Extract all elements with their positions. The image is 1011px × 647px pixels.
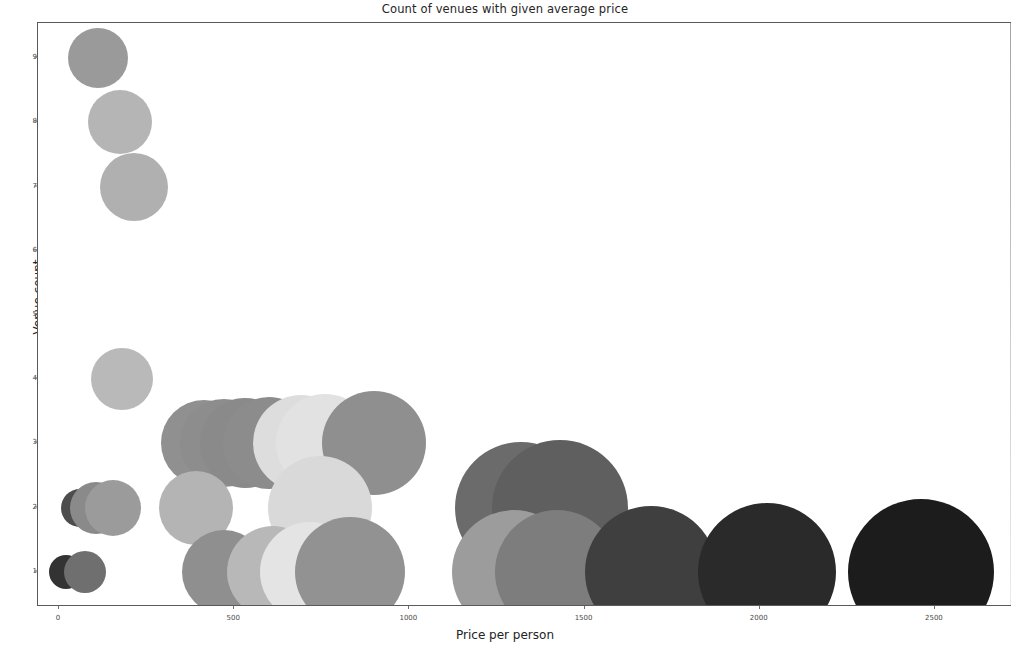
bubble-point	[64, 551, 106, 593]
y-axis-ticks: 123456789	[10, 0, 37, 647]
x-tick-label: 2000	[750, 614, 768, 622]
x-tick-label: 2500	[925, 614, 943, 622]
bubble-point	[68, 28, 128, 88]
x-tick-mark	[759, 606, 760, 609]
bubble-point	[85, 480, 141, 536]
x-tick-mark	[584, 606, 585, 609]
x-tick-mark	[58, 606, 59, 609]
bubble-point	[848, 499, 994, 606]
bubble-point	[91, 348, 153, 410]
plot-area	[37, 22, 1011, 606]
bubble-point	[698, 503, 836, 606]
x-tick-mark	[934, 606, 935, 609]
x-tick-mark	[408, 606, 409, 609]
x-tick-mark	[233, 606, 234, 609]
chart-title: Count of venues with given average price	[0, 2, 1010, 16]
x-tick-label: 1500	[575, 614, 593, 622]
bubble-point	[100, 153, 168, 221]
x-axis-label: Price per person	[0, 628, 1010, 642]
x-tick-label: 1000	[399, 614, 417, 622]
x-tick-label: 500	[227, 614, 240, 622]
x-tick-label: 0	[56, 614, 60, 622]
bubble-point	[88, 90, 152, 154]
